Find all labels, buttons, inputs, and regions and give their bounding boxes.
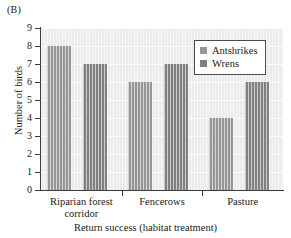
y-tick <box>35 82 41 83</box>
x-tick-label-line: corridor <box>29 208 134 220</box>
y-tick <box>35 28 41 29</box>
bar-texture <box>128 82 152 190</box>
bar-texture <box>209 118 233 190</box>
y-tick-label: 0 <box>18 185 32 195</box>
y-tick-label: 3 <box>18 131 32 141</box>
y-tick <box>35 100 41 101</box>
y-tick-label: 8 <box>18 41 32 51</box>
y-tick <box>35 172 41 173</box>
bar-antshrikes-3 <box>209 118 233 190</box>
legend-swatch-antshrikes <box>200 47 207 54</box>
y-tick-label: 2 <box>18 149 32 159</box>
x-axis-line <box>40 190 284 191</box>
bar-texture <box>245 82 269 190</box>
figure-panel-b: (B) Number of birds 0123456789 Antshrike… <box>0 0 291 238</box>
y-tick-label: 7 <box>18 59 32 69</box>
bar-antshrikes-2 <box>128 82 152 190</box>
legend-label-antshrikes: Antshrikes <box>212 45 258 56</box>
legend-item-antshrikes: Antshrikes <box>200 44 258 57</box>
y-tick <box>35 136 41 137</box>
y-tick <box>35 154 41 155</box>
x-tick-label: Pasture <box>190 196 291 208</box>
bar-texture <box>47 46 71 190</box>
y-tick <box>35 118 41 119</box>
x-tick-label-line: Pasture <box>190 196 291 208</box>
legend-swatch-wrens <box>200 60 207 67</box>
gridline <box>41 28 283 29</box>
y-tick-label: 5 <box>18 95 32 105</box>
panel-label: (B) <box>7 4 21 16</box>
legend-item-wrens: Wrens <box>200 57 258 70</box>
y-tick-label: 1 <box>18 167 32 177</box>
bar-wrens-1 <box>83 64 107 190</box>
y-tick-label: 9 <box>18 23 32 33</box>
bar-wrens-2 <box>164 64 188 190</box>
legend-label-wrens: Wrens <box>212 58 239 69</box>
bar-wrens-3 <box>245 82 269 190</box>
y-tick-label: 6 <box>18 77 32 87</box>
y-tick <box>35 64 41 65</box>
chart-legend: Antshrikes Wrens <box>194 40 266 75</box>
x-axis-title: Return success (habitat treatment) <box>0 222 291 233</box>
bar-texture <box>164 64 188 190</box>
y-tick <box>35 46 41 47</box>
bar-antshrikes-1 <box>47 46 71 190</box>
y-tick-label: 4 <box>18 113 32 123</box>
bar-texture <box>83 64 107 190</box>
y-tick <box>35 190 41 191</box>
y-axis-line <box>40 27 41 191</box>
